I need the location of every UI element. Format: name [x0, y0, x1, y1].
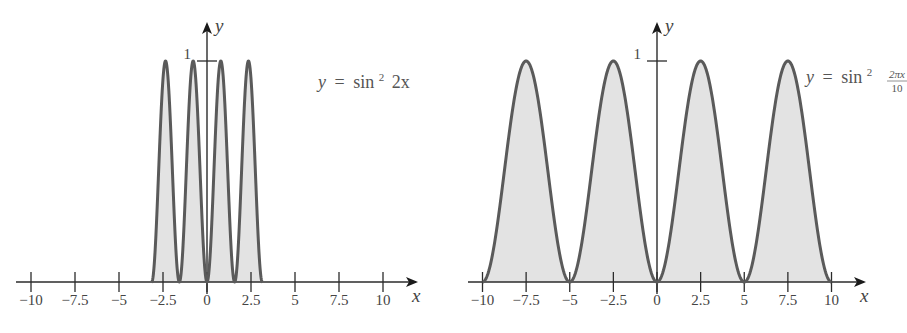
x-tick-label: 2.5 [691, 292, 710, 308]
x-tick-label: 0 [653, 292, 661, 308]
svg-text:y = sin: y = sin 2 2x [316, 65, 410, 92]
formula-eq: = [823, 67, 833, 87]
formula-exp: 2 [867, 66, 873, 78]
x-tick-label: 10 [376, 292, 391, 308]
formula-eq: = [335, 72, 345, 92]
y-axis-label: y [663, 15, 674, 36]
formula-y: y [316, 72, 326, 92]
y-ticks: 1 [634, 46, 668, 62]
x-tick-label: −5 [111, 292, 127, 308]
x-tick-label: 5 [291, 292, 299, 308]
y-axis-label: y [213, 15, 224, 36]
formula-fn: sin [841, 67, 862, 87]
svg-text:y = sin: y = sin 2 [804, 66, 872, 87]
y-tick-label: 1 [184, 46, 192, 62]
x-tick-label: 7.5 [779, 292, 798, 308]
x-tick-label: −10 [19, 292, 42, 308]
formula-arg: 2x [392, 72, 410, 92]
y-ticks: 1 [184, 46, 218, 62]
x-axis-label: x [411, 285, 421, 306]
x-tick-label: −7.5 [61, 292, 88, 308]
x-tick-label: −10 [471, 292, 494, 308]
formula-label: y = sin 2 2πx 10 [804, 66, 907, 94]
chart-sin2-2pix-over-10: −10−7.5−5−2.502.557.510 1 x y y = sin 2 … [468, 15, 907, 308]
x-tick-label: −2.5 [149, 292, 176, 308]
figure: −10−7.5−5−2.502.557.510 1 x y y = sin 2 … [0, 0, 907, 333]
x-axis-label: x [859, 285, 869, 306]
x-tick-label: −2.5 [600, 292, 627, 308]
x-tick-label: 7.5 [330, 292, 349, 308]
formula-label: y = sin 2 2x [316, 65, 410, 92]
chart-sin2-2x: −10−7.5−5−2.502.557.510 1 x y y = sin 2 … [16, 15, 421, 308]
x-tick-label: 10 [824, 292, 839, 308]
formula-exp: 2 [379, 71, 385, 83]
x-tick-label: −7.5 [513, 292, 540, 308]
formula-y: y [804, 67, 814, 87]
x-tick-label: −5 [562, 292, 578, 308]
formula-fn: sin [353, 72, 374, 92]
x-tick-label: 5 [741, 292, 749, 308]
formula-numerator: 2πx [889, 68, 905, 80]
x-tick-label: 0 [203, 292, 211, 308]
formula-denominator: 10 [892, 82, 904, 94]
x-tick-label: 2.5 [242, 292, 261, 308]
y-tick-label: 1 [634, 46, 642, 62]
